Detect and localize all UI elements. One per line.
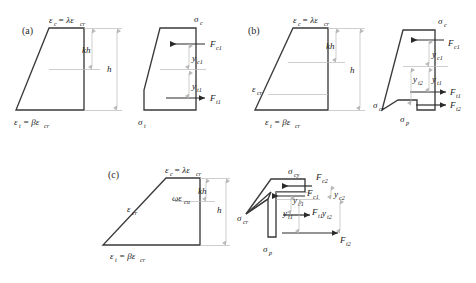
strain-omega-label: ωε cu bbox=[172, 193, 190, 205]
strain-mid-label: ε cr bbox=[127, 204, 138, 216]
stress-sigma-c-main: σ bbox=[438, 16, 443, 26]
stress-cr-label: σ cr bbox=[373, 100, 385, 112]
lever-yt1-sub: t1 bbox=[197, 86, 202, 93]
strain-top-eps: ε bbox=[49, 15, 53, 25]
strain-top-eps-sub: c bbox=[170, 170, 173, 177]
strain-bottom-eq: = βε bbox=[119, 251, 136, 261]
strain-top-eq-sub: cr bbox=[196, 170, 202, 177]
lever-yt1-main: y bbox=[191, 81, 196, 91]
panel-a: (a) kh h ε c = λε cr ε bbox=[14, 14, 222, 129]
panel-c-stress-diagram: F c2 F c1 F t1 F t2 bbox=[237, 166, 351, 256]
force-Ft1-label: F t1 bbox=[209, 93, 221, 105]
lever-yt1-main: y bbox=[282, 208, 287, 218]
strain-bottom-eq-sub: cr bbox=[295, 122, 301, 129]
lever-yc1-label: y c1 bbox=[292, 195, 304, 207]
force-Ft2-label: F t2 bbox=[449, 100, 461, 112]
force-Fc2-main: F bbox=[315, 172, 322, 182]
strain-bottom-eq: = βε bbox=[274, 117, 291, 127]
strain-bottom-eps-sub: t bbox=[19, 122, 21, 129]
dim-kh-label: kh bbox=[82, 45, 91, 55]
force-Fc1-main: F bbox=[306, 188, 313, 198]
lever-yc1-main: y bbox=[292, 195, 297, 205]
lever-yt2-label: y t2 bbox=[412, 74, 423, 86]
strain-bottom-eps: ε bbox=[265, 117, 269, 127]
strain-top-eps: ε bbox=[165, 165, 169, 175]
strain-bottom-eps-sub: t bbox=[270, 122, 272, 129]
stress-sigma-p-sub: p bbox=[268, 249, 272, 256]
lever-yc1-main: y bbox=[431, 49, 436, 59]
lever-yt2-main: y bbox=[321, 208, 326, 218]
force-Ft1-sub: t1 bbox=[216, 98, 221, 105]
force-Ft1-sub: t1 bbox=[456, 92, 461, 99]
force-Fc1-sub: c1 bbox=[454, 43, 460, 50]
force-Ft1-main: F bbox=[311, 207, 318, 217]
strain-top-eq: = λε bbox=[58, 15, 74, 25]
lever-yc2-main: y bbox=[333, 189, 338, 199]
panel-b-label: (b) bbox=[248, 25, 260, 37]
force-Fc1-main: F bbox=[447, 38, 454, 48]
strain-top-label: ε c = λε cr bbox=[293, 15, 330, 27]
stress-profile-outline bbox=[382, 30, 435, 110]
stress-sigma-cr-main: σ bbox=[373, 100, 378, 110]
strain-mid-eps: ε bbox=[127, 204, 131, 214]
force-Fc2-label: F c2 bbox=[315, 172, 328, 184]
stress-top-label: σ c bbox=[438, 16, 447, 28]
force-Ft2-label: F t2 bbox=[339, 235, 351, 247]
lever-yt2-label: y t2 bbox=[321, 208, 332, 220]
strain-bottom-eps: ε bbox=[110, 251, 114, 261]
force-Ft2-main: F bbox=[339, 235, 346, 245]
strain-top-eq-sub: cr bbox=[80, 20, 86, 27]
stress-sigma-c-sub: c bbox=[200, 19, 203, 26]
panel-b-strain-diagram: kh h ε c = λε cr ε cr ε t = βε cr bbox=[252, 15, 365, 129]
lever-yc1-main: y bbox=[191, 53, 196, 63]
strain-omega-main: ωε bbox=[172, 193, 182, 203]
force-Ft1-main: F bbox=[209, 93, 216, 103]
strain-bottom-label: ε t = βε cr bbox=[265, 117, 301, 129]
panel-a-label: (a) bbox=[22, 25, 33, 37]
lever-yc1-sub: c1 bbox=[437, 54, 443, 61]
dim-h-label: h bbox=[217, 205, 222, 215]
lever-yc2-label: y c2 bbox=[333, 189, 345, 201]
stress-sigma-c-sub: c bbox=[444, 21, 447, 28]
strain-top-eq: = λε bbox=[302, 15, 318, 25]
force-Fc1-main: F bbox=[209, 39, 216, 49]
strain-top-label: ε c = λε cr bbox=[49, 15, 86, 27]
stress-sigma-p-main: σ bbox=[263, 244, 268, 254]
dim-kh-label: kh bbox=[326, 41, 335, 51]
strain-top-eq: = λε bbox=[174, 165, 190, 175]
panel-c-label: (c) bbox=[108, 169, 119, 181]
strain-bottom-eq-sub: cr bbox=[140, 256, 146, 263]
stress-top-label: σ cy bbox=[288, 166, 300, 178]
lever-yt1-label: y t1 bbox=[431, 74, 442, 86]
lever-yt1-sub: t1 bbox=[437, 79, 442, 86]
force-Ft1-main: F bbox=[449, 87, 456, 97]
stress-p-label: σ p bbox=[263, 244, 272, 256]
force-Ft1-label: F t1 bbox=[449, 87, 461, 99]
lever-yt2-main: y bbox=[412, 74, 417, 84]
lever-yc1-label: y c1 bbox=[431, 49, 443, 61]
force-Fc1-label: F c1 bbox=[306, 188, 319, 200]
stress-sigma-cy-sub: cy bbox=[294, 171, 300, 178]
strain-omega-sub: cu bbox=[184, 198, 190, 205]
stress-sigma-p-sub: p bbox=[405, 119, 409, 126]
stress-sigma-cr-main: σ bbox=[237, 213, 242, 223]
strain-profile-outline bbox=[16, 28, 84, 110]
strain-bottom-label: ε t = βε cr bbox=[14, 117, 50, 129]
strain-top-eps-sub: c bbox=[298, 20, 301, 27]
stress-top-label: σ c bbox=[194, 14, 203, 26]
strain-profile-outline bbox=[103, 178, 200, 245]
strain-mid-eps-sub: cr bbox=[257, 89, 263, 96]
stress-sigma-t-main: σ bbox=[138, 117, 143, 127]
lever-yc1-label: y c1 bbox=[191, 53, 203, 65]
strain-profile-outline bbox=[255, 28, 328, 110]
stress-sigma-cr-sub: cr bbox=[379, 105, 385, 112]
strain-top-label: ε c = λε cr bbox=[165, 165, 202, 177]
stress-profile-crack-wedge bbox=[246, 192, 271, 214]
stress-sigma-c-main: σ bbox=[194, 14, 199, 24]
strain-bottom-eq: = βε bbox=[23, 117, 40, 127]
force-Fc1-sub: c1 bbox=[313, 193, 319, 200]
dim-kh-label: kh bbox=[198, 186, 207, 196]
force-Fc2-sub: c2 bbox=[322, 177, 328, 184]
strain-top-eq-sub: cr bbox=[324, 20, 330, 27]
strain-top-eps: ε bbox=[293, 15, 297, 25]
